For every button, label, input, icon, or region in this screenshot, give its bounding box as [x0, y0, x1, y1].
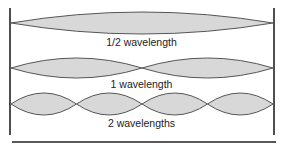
wave-loop: [208, 93, 274, 115]
wave-loop: [142, 58, 273, 78]
label-half-wavelength: 1/2 wavelength: [0, 36, 283, 48]
wave-loop: [11, 58, 142, 78]
wave-loop: [77, 93, 143, 115]
wave-loop: [11, 12, 273, 34]
label-two-wavelengths: 2 wavelengths: [0, 117, 283, 129]
wave-loop: [142, 93, 208, 115]
label-one-wavelength: 1 wavelength: [0, 78, 283, 90]
wave-loop: [11, 93, 77, 115]
